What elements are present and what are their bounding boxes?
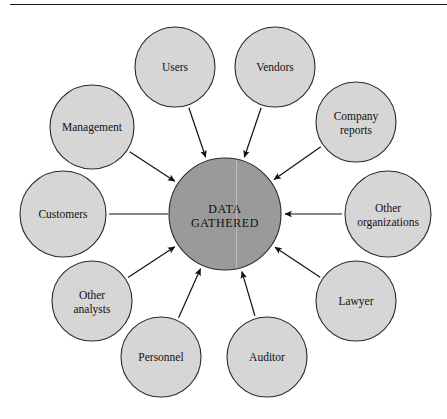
node-company-reports[interactable]: Companyreports (316, 82, 396, 162)
node-management[interactable]: Management (50, 85, 134, 169)
node-personnel[interactable]: Personnel (121, 317, 201, 397)
node-label-vendors: Vendors (256, 61, 294, 73)
node-label-other-analysts-line2: analysts (73, 303, 111, 316)
node-other-analysts[interactable]: Otheranalysts (52, 261, 132, 341)
node-circle-company-reports (316, 82, 396, 162)
spoke-users (189, 108, 206, 157)
spoke-other-analysts (128, 247, 175, 278)
node-circle-other-organizations (345, 171, 431, 257)
spoke-management (130, 152, 175, 182)
hub-label-line1: DATA (208, 202, 241, 216)
node-label-personnel: Personnel (138, 351, 183, 363)
spoke-vendors (244, 108, 261, 157)
node-label-company-reports-line2: reports (340, 124, 372, 137)
spoke-company-reports (274, 147, 321, 180)
node-lawyer[interactable]: Lawyer (316, 261, 396, 341)
node-customers[interactable]: Customers (20, 171, 106, 257)
node-label-users: Users (162, 61, 189, 73)
spoke-personnel (179, 269, 201, 318)
node-label-customers: Customers (38, 208, 88, 220)
node-label-other-analysts-line1: Other (79, 289, 105, 301)
spoke-lawyer (275, 247, 320, 277)
hub-layer: DATAGATHERED (169, 158, 281, 270)
node-auditor[interactable]: Auditor (227, 317, 307, 397)
hub-label-line2: GATHERED (191, 216, 259, 230)
hub-node[interactable]: DATAGATHERED (169, 158, 281, 270)
node-vendors[interactable]: Vendors (235, 27, 315, 107)
node-label-lawyer: Lawyer (338, 295, 373, 308)
node-other-organizations[interactable]: Otherorganizations (345, 171, 431, 257)
node-label-auditor: Auditor (249, 351, 285, 363)
node-label-other-organizations-line2: organizations (357, 216, 419, 229)
node-circle-other-analysts (52, 261, 132, 341)
node-label-other-organizations-line1: Other (375, 202, 401, 214)
node-label-company-reports-line1: Company (334, 110, 379, 123)
radial-diagram: UsersVendorsCompanyreportsOtherorganizat… (0, 0, 447, 419)
node-label-management: Management (62, 121, 123, 134)
spoke-auditor (242, 272, 255, 316)
diagram-page: UsersVendorsCompanyreportsOtherorganizat… (0, 0, 447, 419)
node-users[interactable]: Users (135, 27, 215, 107)
